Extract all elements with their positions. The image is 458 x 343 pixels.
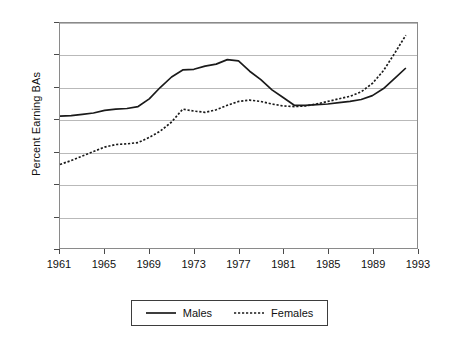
x-tick-mark <box>373 249 374 254</box>
x-tick-mark <box>149 249 150 254</box>
x-tick-mark <box>328 249 329 254</box>
x-tick-mark <box>59 249 60 254</box>
legend-entry-females: Females <box>234 307 313 319</box>
series-line-females <box>60 35 406 164</box>
chart-legend: MalesFemales <box>131 300 328 326</box>
chart-container: Percent Earning BAs 05101520253035 19611… <box>0 0 458 292</box>
x-tick-label: 1993 <box>388 258 448 270</box>
legend-entry-males: Males <box>146 307 212 319</box>
legend-swatch-solid-icon <box>146 309 176 317</box>
legend-label: Males <box>183 307 212 319</box>
plot-area <box>59 22 418 249</box>
series-lines <box>60 23 417 248</box>
x-tick-mark <box>283 249 284 254</box>
series-line-males <box>60 60 406 117</box>
x-tick-mark <box>194 249 195 254</box>
y-axis-title: Percent Earning BAs <box>30 14 42 234</box>
legend-swatch-dotted-icon <box>234 309 264 317</box>
legend-label: Females <box>271 307 313 319</box>
x-tick-mark <box>239 249 240 254</box>
chart-figure: Percent Earning BAs 05101520253035 19611… <box>0 0 458 343</box>
x-tick-mark <box>104 249 105 254</box>
x-tick-mark <box>418 249 419 254</box>
